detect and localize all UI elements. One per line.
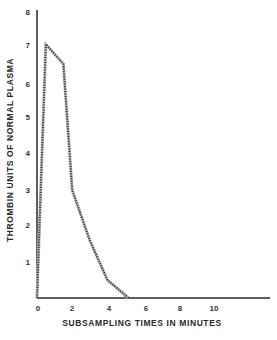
y-tick: 8 [26, 8, 31, 17]
x-tick: 8 [178, 304, 183, 313]
y-tick: 7 [26, 41, 31, 50]
x-axis-title: SUBSAMPLING TIMES IN MINUTES [62, 318, 221, 328]
data-line-shadow [37, 44, 129, 298]
x-tick: 4 [107, 304, 112, 313]
y-tick: 3 [26, 186, 31, 195]
x-tick: 0 [36, 304, 41, 313]
y-tick-labels: 8 7 6 5 4 3 2 1 [26, 8, 31, 267]
y-tick: 2 [26, 221, 31, 230]
data-line [37, 44, 129, 298]
x-tick: 10 [210, 304, 219, 313]
thrombin-chart: 8 7 6 5 4 3 2 1 0 2 4 6 8 10 SUBSAMPLING… [0, 0, 277, 340]
y-tick: 1 [26, 258, 31, 267]
x-tick: 2 [70, 304, 75, 313]
x-tick-labels: 0 2 4 6 8 10 [36, 304, 219, 313]
y-tick: 5 [26, 113, 31, 122]
y-axis-title: THROMBIN UNITS OF NORMAL PLASMA [5, 58, 15, 242]
y-tick: 6 [26, 80, 31, 89]
y-tick: 4 [26, 149, 31, 158]
x-tick: 6 [144, 304, 149, 313]
